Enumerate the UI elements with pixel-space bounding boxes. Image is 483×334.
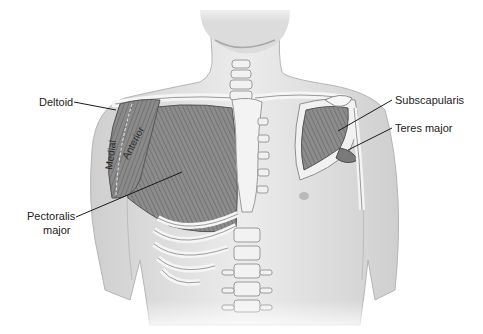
pectoralis-major-label-line1: Pectoralis [27, 210, 75, 223]
deltoid-label: Deltoid [39, 96, 73, 109]
nipple-mark [299, 192, 309, 200]
torso-illustration: Medial Anterior [0, 0, 483, 334]
cervical-spine [230, 60, 252, 100]
teres-major-label: Teres major [395, 122, 452, 135]
pectoralis-major-label-line2: major [43, 224, 71, 237]
subscapularis-label: Subscapularis [395, 94, 464, 107]
anatomy-figure: Medial Anterior [0, 0, 483, 334]
